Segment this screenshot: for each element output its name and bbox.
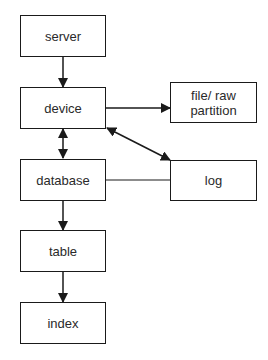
node-file-label-line2: partition bbox=[190, 103, 236, 118]
node-log-label: log bbox=[205, 173, 222, 188]
node-index: index bbox=[20, 302, 106, 344]
node-device-label: device bbox=[44, 101, 82, 116]
node-database-label: database bbox=[36, 173, 90, 188]
node-database: database bbox=[20, 159, 106, 201]
edge-device-log bbox=[107, 128, 170, 160]
node-index-label: index bbox=[47, 316, 78, 331]
node-file-raw-partition: file/ raw partition bbox=[170, 82, 257, 123]
node-log: log bbox=[170, 160, 257, 201]
node-file-label-line1: file/ raw bbox=[191, 88, 236, 103]
node-server: server bbox=[20, 15, 106, 57]
node-table-label: table bbox=[49, 244, 77, 259]
node-table: table bbox=[20, 230, 106, 272]
node-device: device bbox=[20, 87, 106, 129]
node-server-label: server bbox=[45, 29, 81, 44]
